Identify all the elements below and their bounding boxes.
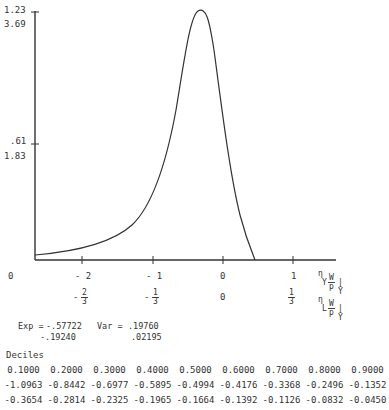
frac-w-p: W p: [328, 274, 335, 291]
decile-cell: -0.8442: [45, 377, 88, 392]
decile-cell: -0.0450: [346, 392, 389, 407]
frac-w-p: W p: [328, 300, 335, 317]
x2-tick-label-minus-2-3: - 2 3: [73, 292, 78, 302]
deciles-row-l: -0.3654 -0.2814 -0.2325 -0.1965 -0.1664 …: [2, 392, 389, 407]
decile-cell: 0.9000: [346, 362, 389, 377]
y-tick-upper-label: 1.23: [4, 5, 26, 15]
decile-cell: 0.6000: [217, 362, 260, 377]
var-value-1: .19760: [128, 321, 159, 332]
var-value-2: .02195: [131, 332, 162, 343]
exp-label: Exp =: [18, 321, 44, 332]
decile-cell: -0.0832: [303, 392, 346, 407]
decile-cell: -0.1392: [217, 392, 260, 407]
decile-cell: -0.2814: [45, 392, 88, 407]
decile-cell: -1.0963: [2, 377, 45, 392]
decile-cell: -0.3368: [260, 377, 303, 392]
x-tick-label-minus-2: - 2: [75, 271, 91, 281]
decile-cell: -0.2325: [88, 392, 131, 407]
deciles-title: Deciles: [6, 350, 44, 360]
decile-cell: -0.1126: [260, 392, 303, 407]
cond-ybar: |Ȳ: [338, 278, 343, 296]
x-tick-label-0: 0: [220, 271, 225, 281]
decile-cell: 0.3000: [88, 362, 131, 377]
decile-cell: -0.3654: [2, 392, 45, 407]
sub-y: Y: [322, 278, 327, 287]
eta-symbol: η: [318, 269, 323, 278]
decile-cell: 0.4000: [131, 362, 174, 377]
density-plot: [0, 0, 389, 300]
deciles-row-p: 0.1000 0.2000 0.3000 0.4000 0.5000 0.600…: [2, 362, 389, 377]
cond-ybar: |Ȳ: [338, 304, 343, 322]
sub-l: L: [322, 304, 327, 313]
x-tick-label-1: 1: [291, 271, 296, 281]
decile-cell: -0.4176: [217, 377, 260, 392]
decile-cell: 0.1000: [2, 362, 45, 377]
x2-tick-label-minus-1-3: - 1 3: [144, 292, 149, 302]
decile-cell: 0.2000: [45, 362, 88, 377]
y-tick-upper-label-secondary: 3.69: [4, 19, 26, 29]
y-tick-mid-label: .61: [10, 136, 26, 146]
y-tick-mid-label-secondary: 1.83: [4, 151, 26, 161]
decile-cell: -0.4994: [174, 377, 217, 392]
deciles-row-y: -1.0963 -0.8442 -0.6977 -0.5895 -0.4994 …: [2, 377, 389, 392]
x-tick-label-minus-1: - 1: [146, 271, 162, 281]
eta-symbol: η: [318, 295, 323, 304]
density-curve: [35, 10, 255, 260]
decile-cell: 0.7000: [260, 362, 303, 377]
decile-cell: -0.1664: [174, 392, 217, 407]
decile-cell: 0.8000: [303, 362, 346, 377]
decile-cell: -0.1352: [346, 377, 389, 392]
decile-cell: -0.2496: [303, 377, 346, 392]
decile-cell: 0.5000: [174, 362, 217, 377]
x-origin-label: 0: [8, 271, 13, 281]
decile-cell: -0.6977: [88, 377, 131, 392]
exp-value-1: -.57722: [46, 321, 82, 332]
x2-tick-label-0: 0: [220, 292, 225, 302]
exp-value-2: -.19240: [40, 332, 76, 343]
decile-cell: -0.5895: [131, 377, 174, 392]
deciles-table: 0.1000 0.2000 0.3000 0.4000 0.5000 0.600…: [2, 362, 389, 407]
var-label: Var =: [97, 321, 123, 332]
decile-cell: -0.1965: [131, 392, 174, 407]
